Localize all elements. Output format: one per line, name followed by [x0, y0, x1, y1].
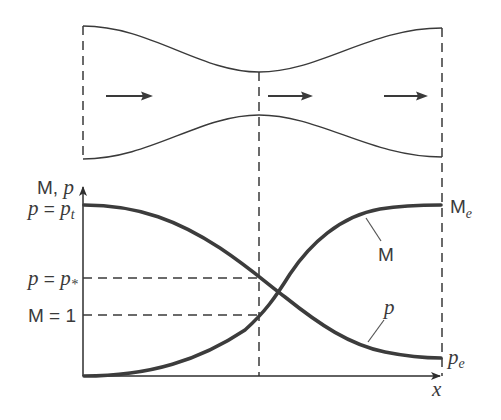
flow-arrow-icon [268, 92, 313, 101]
mach-leader-line [366, 218, 381, 241]
nozzle-diagram: M, p p = pt p = p* M = 1 Me pe M p x [0, 0, 501, 420]
pressure-curve-label: p [382, 295, 395, 319]
mach-exit-label: Me [450, 196, 472, 221]
pressure-curve [84, 205, 441, 358]
pt-level-label: p = pt [26, 196, 76, 222]
p-star-level-label: p = p* [26, 266, 78, 292]
nozzle-geometry [83, 26, 442, 376]
nozzle-lower-wall [83, 115, 442, 159]
mach-curve-label: M [378, 244, 394, 265]
flow-arrow-icon [106, 92, 153, 101]
pressure-exit-label: pe [446, 345, 465, 371]
m-one-level-label: M = 1 [28, 305, 76, 326]
mach-pressure-plot [83, 187, 441, 376]
mach-curve [84, 205, 441, 376]
flow-arrow-icon [384, 92, 428, 101]
pressure-leader-line [368, 320, 384, 342]
x-axis-label: x [431, 377, 442, 401]
nozzle-upper-wall [83, 26, 442, 72]
